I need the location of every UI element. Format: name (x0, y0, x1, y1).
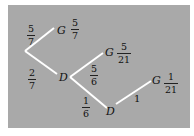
prob-denominator: 6 (82, 109, 90, 119)
outcome-numerator: 5 (71, 18, 79, 28)
prob-d2-g3: 1 (134, 94, 140, 104)
node-g2: G (105, 47, 114, 58)
edge-d1-g2 (70, 53, 103, 77)
outcome-numerator: 1 (167, 72, 175, 82)
prob-numerator: 2 (28, 68, 36, 78)
prob-numerator: 5 (90, 64, 98, 74)
prob-denominator: 7 (27, 37, 35, 47)
outcome-denominator: 21 (164, 85, 178, 95)
prob-d1-g2: 5 6 (90, 64, 98, 86)
outcome-denominator: 21 (117, 55, 131, 65)
prob-numerator: 5 (27, 24, 35, 34)
prob-denominator: 6 (90, 77, 98, 87)
prob-denominator: 7 (28, 81, 36, 91)
node-d1: D (59, 72, 68, 83)
outcome-denominator: 7 (71, 31, 79, 41)
outcome-g2: 5 21 (117, 42, 131, 64)
outcome-g3: 1 21 (164, 72, 178, 94)
node-g3: G (152, 75, 161, 86)
node-g1: G (57, 25, 66, 36)
node-d2: D (106, 106, 115, 117)
prob-d1-d2: 1 6 (82, 96, 90, 118)
prob-numerator: 1 (82, 96, 90, 106)
prob-root-g1: 5 7 (27, 24, 35, 46)
prob-root-d1: 2 7 (28, 68, 36, 90)
outcome-numerator: 5 (120, 42, 128, 52)
outcome-g1: 5 7 (71, 18, 79, 40)
